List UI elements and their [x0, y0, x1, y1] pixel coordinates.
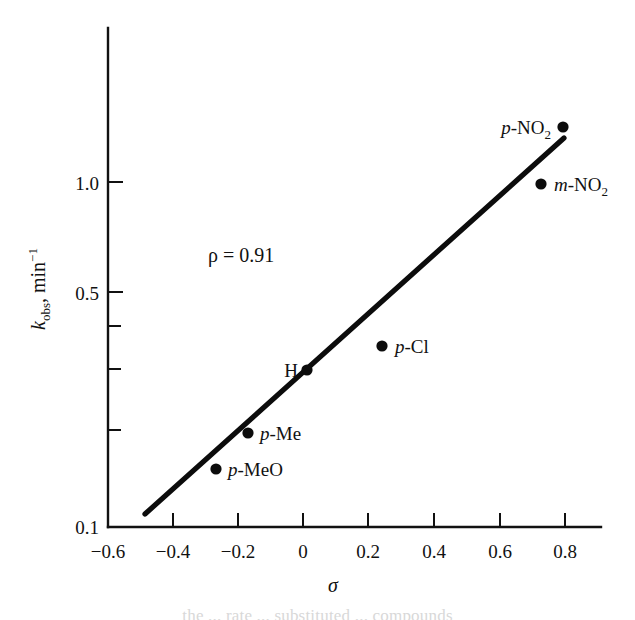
chart-canvas: 1.0 0.5 0.1 −0.6 −0.4 −0.2 0 0.2 0.4 0.6…: [0, 0, 635, 620]
y-axis-ticks: [108, 182, 123, 430]
x-ticklabel-7: 0.6: [488, 541, 512, 562]
point-label-prefix: p: [499, 117, 511, 138]
y-axis-title-subscript: obs: [38, 303, 53, 321]
point-label-subscript: 2: [602, 184, 609, 199]
point-label-prefix: m: [554, 174, 568, 195]
rho-annotation: ρ = 0.91: [208, 244, 274, 267]
marker-dot[interactable]: [376, 340, 387, 351]
y-axis-ticklabels: 1.0 0.5 0.1: [75, 173, 99, 538]
axes-group: [108, 28, 601, 527]
fit-line: [145, 138, 564, 514]
point-label: p-MeO: [226, 459, 283, 480]
marker-dot[interactable]: [242, 427, 253, 438]
x-ticklabel-2: −0.4: [156, 541, 191, 562]
marker-dot[interactable]: [557, 121, 568, 132]
point-label-rest: -NO: [568, 174, 602, 195]
point-label: p-NO2: [499, 117, 551, 142]
data-point-p-Cl[interactable]: p-Cl: [376, 336, 428, 357]
point-label: H: [284, 360, 298, 381]
y-axis-title-separator: , min: [27, 262, 49, 303]
point-label-prefix: p: [226, 459, 238, 480]
point-label: p-Cl: [393, 336, 429, 357]
point-label-rest: -Cl: [405, 336, 429, 357]
hammett-plot-figure: 1.0 0.5 0.1 −0.6 −0.4 −0.2 0 0.2 0.4 0.6…: [0, 0, 635, 620]
x-ticklabel-5: 0.2: [356, 541, 380, 562]
data-point-m-NO2[interactable]: m-NO2: [535, 174, 608, 199]
y-ticklabel-3: 0.1: [75, 517, 99, 538]
point-label-rest: H: [284, 360, 298, 381]
point-label: p-Me: [258, 423, 301, 444]
x-ticklabel-4: 0: [298, 541, 308, 562]
point-label-subscript: 2: [545, 127, 552, 142]
figure-caption-partial: the ... rate ... substituted ... compoun…: [0, 606, 635, 620]
x-ticklabel-8: 0.8: [553, 541, 577, 562]
point-label-prefix: p: [258, 423, 270, 444]
data-points-group: p-MeO p-Me H p-Cl: [210, 117, 608, 480]
x-axis-ticks: [173, 513, 565, 527]
x-axis-ticklabels: −0.6 −0.4 −0.2 0 0.2 0.4 0.6 0.8: [91, 541, 577, 562]
marker-dot[interactable]: [210, 463, 221, 474]
y-ticklabel-2: 0.5: [75, 283, 99, 304]
marker-dot[interactable]: [535, 178, 546, 189]
point-label-rest: -Me: [270, 423, 302, 444]
point-label-prefix: p: [393, 336, 405, 357]
y-axis-title: kobs, min−1: [25, 248, 53, 330]
data-point-p-MeO[interactable]: p-MeO: [210, 459, 282, 480]
svg-text:kobs, min−1: kobs, min−1: [25, 248, 53, 330]
data-point-p-Me[interactable]: p-Me: [242, 423, 301, 444]
x-ticklabel-3: −0.2: [221, 541, 255, 562]
x-ticklabel-1: −0.6: [91, 541, 125, 562]
y-ticklabel-1: 1.0: [75, 173, 99, 194]
point-label-rest: -NO: [511, 117, 545, 138]
x-axis-title: σ: [328, 574, 339, 596]
point-label-rest: -MeO: [238, 459, 283, 480]
x-ticklabel-6: 0.4: [422, 541, 446, 562]
marker-dot[interactable]: [301, 364, 312, 375]
point-label: m-NO2: [554, 174, 608, 199]
data-point-p-NO2[interactable]: p-NO2: [499, 117, 568, 142]
y-axis-title-superscript: −1: [25, 248, 40, 262]
